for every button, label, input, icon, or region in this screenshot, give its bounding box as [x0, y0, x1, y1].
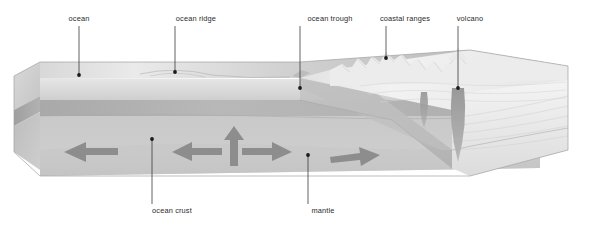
continental-front-face	[452, 80, 568, 176]
label-text-ocean: ocean	[69, 14, 90, 23]
earth-block	[14, 48, 568, 176]
leader-dot-ocean-ridge	[173, 70, 177, 74]
leader-dot-ocean	[77, 73, 81, 77]
label-text-coastal-ranges: coastal ranges	[380, 14, 430, 23]
label-text-volcano: volcano	[457, 14, 484, 23]
leader-dot-volcano	[456, 86, 460, 90]
label-text-mantle: mantle	[311, 206, 334, 215]
tectonics-illustration: ocean ocean ridge ocean trough coastal r…	[0, 0, 591, 229]
leader-dot-mantle	[306, 153, 310, 157]
label-text-ocean-crust: ocean crust	[152, 206, 192, 215]
leader-dot-coastal-ranges	[384, 56, 388, 60]
label-text-ocean-ridge: ocean ridge	[176, 14, 216, 23]
leader-dot-ocean-trough	[298, 86, 302, 90]
leader-dot-ocean-crust	[150, 137, 154, 141]
label-text-ocean-trough: ocean trough	[308, 14, 353, 23]
block-diagram: ocean ocean ridge ocean trough coastal r…	[0, 0, 591, 229]
